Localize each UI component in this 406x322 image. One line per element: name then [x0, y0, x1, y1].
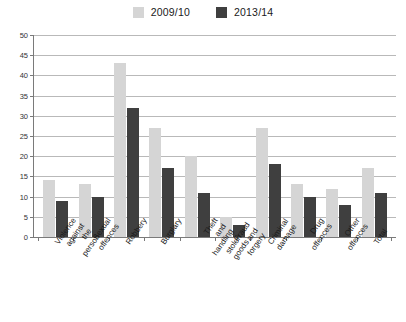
x-label-slot: Theft and handling stolen goods	[179, 239, 215, 322]
y-tick-label: 45	[20, 51, 28, 60]
bar	[149, 128, 161, 237]
x-label-slot: Sexual offences	[73, 239, 109, 322]
bar-group	[215, 35, 250, 237]
legend-entry-2009-10: 2009/10	[133, 6, 190, 18]
y-tick-label: 50	[20, 31, 28, 40]
x-label-slot: Other offences	[321, 239, 357, 322]
x-label-slot: Robbery	[108, 239, 144, 322]
y-tick-label: 25	[20, 132, 28, 141]
y-tick-label: 20	[20, 152, 28, 161]
y-tick-label: 0	[24, 233, 28, 242]
x-label-slot: Fraud and forgery	[215, 239, 251, 322]
bar-group	[321, 35, 356, 237]
bar-group	[144, 35, 179, 237]
y-tick-label: 5	[24, 212, 28, 221]
bar	[127, 108, 139, 237]
x-label-slot: Total	[357, 239, 393, 322]
bar	[43, 180, 55, 237]
legend-entry-2013-14: 2013/14	[216, 6, 273, 18]
x-label-slot: Violence against the person	[37, 239, 73, 322]
x-label-slot: Drug offences	[286, 239, 322, 322]
bar-group	[357, 35, 392, 237]
x-label-slot: Criminal damage	[250, 239, 286, 322]
y-tick-label: 35	[20, 91, 28, 100]
bars-layer	[34, 35, 396, 237]
bar-group	[250, 35, 285, 237]
chart-legend: 2009/10 2013/14	[0, 6, 406, 18]
bar-group	[109, 35, 144, 237]
plot-area: 05101520253035404550	[33, 35, 396, 238]
bar-group	[286, 35, 321, 237]
bar-group	[180, 35, 215, 237]
bar-chart: 2009/10 2013/14 05101520253035404550 Vio…	[0, 0, 406, 322]
legend-label-2009-10: 2009/10	[151, 6, 190, 18]
y-tick-label: 30	[20, 111, 28, 120]
bar-group	[38, 35, 73, 237]
x-axis-labels: Violence against the personSexual offenc…	[33, 239, 396, 322]
y-tick-label: 15	[20, 172, 28, 181]
y-tick-mark	[30, 237, 34, 238]
y-tick-label: 40	[20, 71, 28, 80]
bar	[114, 63, 126, 237]
bar-group	[73, 35, 108, 237]
x-label-slot: Burglary	[144, 239, 180, 322]
legend-label-2013-14: 2013/14	[234, 6, 273, 18]
legend-swatch-2013-14	[216, 7, 227, 18]
y-tick-label: 10	[20, 192, 28, 201]
bar	[185, 156, 197, 237]
bar	[256, 128, 268, 237]
legend-swatch-2009-10	[133, 7, 144, 18]
